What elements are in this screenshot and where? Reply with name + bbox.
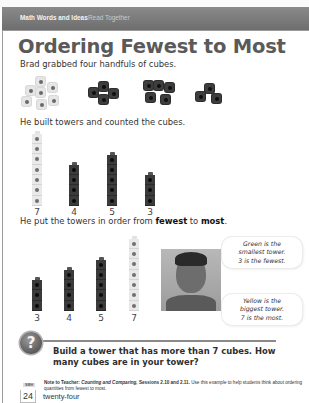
emphasis-most: most: [201, 216, 224, 226]
handful-dark-4: [89, 82, 121, 108]
tower-dark-5: [107, 152, 117, 207]
tower-green-3: [32, 277, 42, 311]
boy-photo: [161, 249, 221, 311]
handful-yellow-7: [22, 77, 62, 111]
intro-text: Brad grabbed four handfuls of cubes.: [20, 59, 176, 69]
handful-dark-3: [196, 84, 224, 108]
built-towers-text: He built towers and counted the cubes.: [20, 117, 185, 127]
subsection-label: Read Together: [88, 14, 130, 21]
ordered-text: He put the towers in order from fewest t…: [20, 216, 227, 226]
tower-dark-4: [64, 267, 74, 311]
page-number-word: twenty-four: [43, 392, 80, 401]
speech-bubble-green: Green is the smallest tower. 3 is the fe…: [222, 237, 302, 268]
tower-yellow-7: [129, 236, 139, 311]
tower-dark-4: [69, 162, 79, 206]
question-prompt: Build a tower that has more than 7 cubes…: [53, 346, 293, 368]
tower-dark-5: [96, 257, 106, 312]
page-left-border: [2, 30, 3, 403]
tower-count-label: 4: [61, 313, 77, 323]
page-title: Ordering Fewest to Most: [18, 35, 286, 58]
section-header-bar: Math Words and Ideas Read Together: [2, 7, 309, 31]
top-margin: [0, 0, 309, 7]
section-label: Math Words and Ideas: [20, 14, 88, 21]
tower-count-label: 5: [93, 313, 109, 323]
tower-green-3: [145, 172, 155, 206]
tower-yellow-7: [32, 131, 42, 206]
tower-count-label: 3: [29, 313, 45, 323]
smh-badge: SMH: [23, 383, 35, 387]
question-mark-icon: ?: [20, 332, 42, 354]
question-divider: [40, 340, 276, 342]
tower-count-label: 7: [126, 313, 142, 323]
handful-dark-5: [144, 81, 178, 109]
emphasis-fewest: fewest: [155, 216, 187, 226]
speech-bubble-yellow: Yellow is the biggest tower. 7 is the mo…: [222, 294, 302, 325]
page-number: 24: [20, 390, 36, 403]
teacher-note: Note to Teacher: Counting and Comparing,…: [44, 380, 306, 393]
